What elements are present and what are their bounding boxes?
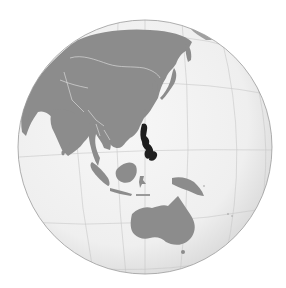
taiwan <box>144 109 147 114</box>
new-zealand <box>244 236 250 242</box>
globe-map <box>0 0 286 288</box>
sri-lanka <box>61 151 64 156</box>
lesser-sunda <box>136 194 150 196</box>
tasmania <box>181 250 185 254</box>
